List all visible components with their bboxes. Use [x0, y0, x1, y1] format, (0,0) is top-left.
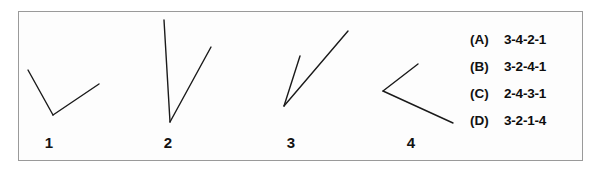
- answer-option-a-value: 3-4-2-1: [504, 32, 546, 47]
- answer-option-c-value: 2-4-3-1: [504, 86, 546, 101]
- answer-option-c-key: (C): [470, 86, 504, 101]
- angle-label-4: 4: [398, 135, 424, 150]
- answer-option-d-value: 3-2-1-4: [504, 113, 546, 128]
- angle-label-1: 1: [36, 135, 62, 150]
- answer-option-b-key: (B): [470, 59, 504, 74]
- answer-options-list: (A) 3-4-2-1 (B) 3-2-4-1 (C) 2-4-3-1 (D) …: [470, 32, 578, 140]
- answer-option-d-key: (D): [470, 113, 504, 128]
- answer-option-b[interactable]: (B) 3-2-4-1: [470, 59, 578, 86]
- answer-option-b-value: 3-2-4-1: [504, 59, 546, 74]
- answer-option-a-key: (A): [470, 32, 504, 47]
- answer-option-a[interactable]: (A) 3-4-2-1: [470, 32, 578, 59]
- angle-label-3: 3: [278, 135, 304, 150]
- answer-option-c[interactable]: (C) 2-4-3-1: [470, 86, 578, 113]
- angle-label-2: 2: [155, 135, 181, 150]
- answer-option-d[interactable]: (D) 3-2-1-4: [470, 113, 578, 140]
- question-figure: 1 2 3 4 (A) 3-4-2-1 (B) 3-2-4-1 (C) 2-4-…: [0, 0, 596, 173]
